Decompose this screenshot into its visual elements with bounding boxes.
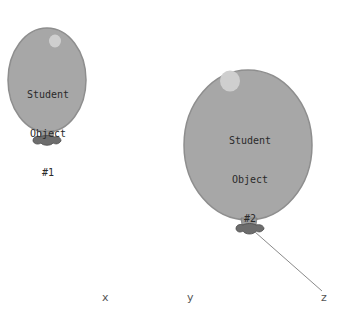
axis-label-x: x bbox=[102, 291, 109, 304]
balloon-2-label-line2: Object bbox=[227, 173, 273, 186]
balloon-2-highlight bbox=[220, 71, 240, 92]
balloon-2-label: Student Object #2 bbox=[227, 108, 273, 238]
balloon-1-label-line1: Student bbox=[27, 88, 69, 101]
balloon-2-label-line3: #2 bbox=[227, 212, 273, 225]
axis-label-y: y bbox=[187, 291, 194, 304]
balloon-2-label-line1: Student bbox=[227, 134, 273, 147]
balloon-1-label-line2: Object bbox=[27, 127, 69, 140]
balloon-1-highlight bbox=[49, 35, 61, 48]
balloon-1-label: Student Object #1 bbox=[27, 62, 69, 192]
balloon-1-label-line3: #1 bbox=[27, 166, 69, 179]
balloon-2-string bbox=[255, 232, 322, 291]
axis-label-z: z bbox=[321, 291, 327, 304]
